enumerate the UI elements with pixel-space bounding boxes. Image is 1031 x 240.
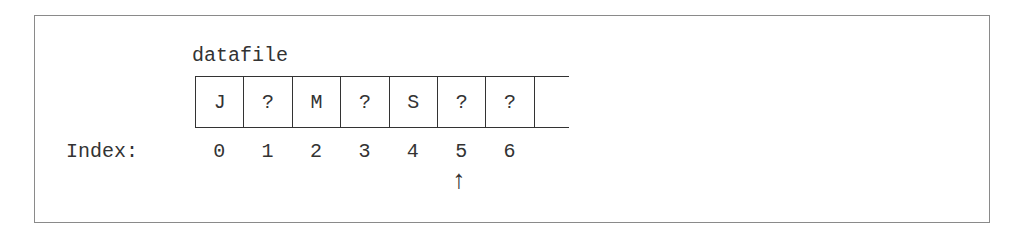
array-cells: J ? M ? S ? ? [195,76,569,128]
index-2: 2 [292,142,340,162]
array-cell-4: S [389,76,437,128]
index-4: 4 [389,142,437,162]
up-arrow-icon: ↑ [449,166,469,196]
array-cell-5: ? [437,76,485,128]
array-cell-1: ? [243,76,291,128]
index-5: 5 [437,142,485,162]
index-1: 1 [243,142,291,162]
array-cell-6: ? [485,76,533,128]
array-cell-0: J [195,76,243,128]
index-label: Index: [66,142,138,162]
array-name: datafile [192,46,288,66]
index-6: 6 [485,142,533,162]
array-cell-open [534,76,570,128]
array-cell-2: M [292,76,340,128]
array-cell-3: ? [340,76,388,128]
index-3: 3 [340,142,388,162]
index-0: 0 [195,142,243,162]
